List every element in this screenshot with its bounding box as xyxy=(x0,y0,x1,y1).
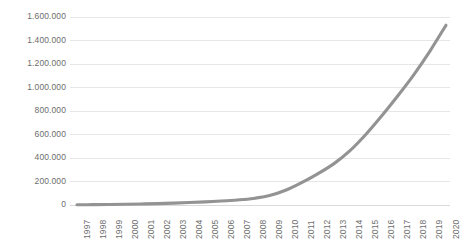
x-axis-tick-label: 2001 xyxy=(146,220,156,239)
x-axis-tick-label: 2020 xyxy=(451,220,461,239)
x-axis-tick-label: 2009 xyxy=(274,220,284,239)
x-axis-tick-label: 1998 xyxy=(98,220,108,239)
x-axis-tick-label: 2003 xyxy=(178,220,188,239)
line-chart: 0200.000400.000600.000800.0001.000.0001.… xyxy=(0,0,470,248)
x-axis-tick-labels: 1997199819992000200120022003200420052006… xyxy=(0,0,470,248)
x-axis-tick-label: 2004 xyxy=(194,220,204,239)
x-axis-tick-label: 2000 xyxy=(130,220,140,239)
x-axis-tick-label: 1997 xyxy=(82,220,92,239)
x-axis-tick-label: 2019 xyxy=(434,220,444,239)
x-axis-tick-label: 2005 xyxy=(210,220,220,239)
x-axis-tick-label: 2018 xyxy=(418,220,428,239)
x-axis-tick-label: 2010 xyxy=(290,220,300,239)
x-axis-tick-label: 2017 xyxy=(402,220,412,239)
x-axis-tick-label: 2015 xyxy=(370,220,380,239)
x-axis-tick-label: 2016 xyxy=(386,220,396,239)
x-axis-tick-label: 2013 xyxy=(338,220,348,239)
x-axis-tick-label: 2007 xyxy=(242,220,252,239)
x-axis-tick-label: 2014 xyxy=(354,220,364,239)
x-axis-tick-label: 2011 xyxy=(306,220,316,239)
x-axis-tick-label: 1999 xyxy=(114,220,124,239)
x-axis-tick-label: 2006 xyxy=(226,220,236,239)
x-axis-tick-label: 2002 xyxy=(162,220,172,239)
x-axis-tick-label: 2012 xyxy=(322,220,332,239)
x-axis-tick-label: 2008 xyxy=(258,220,268,239)
